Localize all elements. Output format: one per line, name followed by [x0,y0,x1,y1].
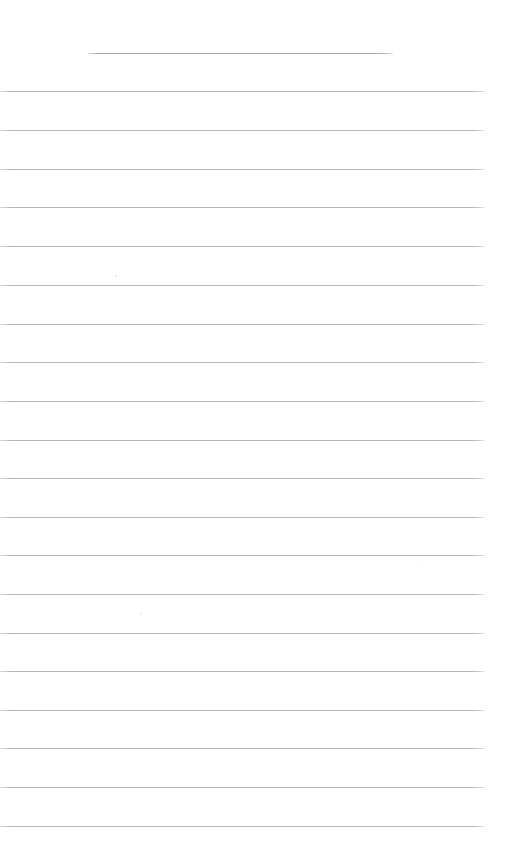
scanned-page [0,0,507,859]
title-ruled-line [88,53,393,54]
writing-area[interactable] [0,60,507,850]
